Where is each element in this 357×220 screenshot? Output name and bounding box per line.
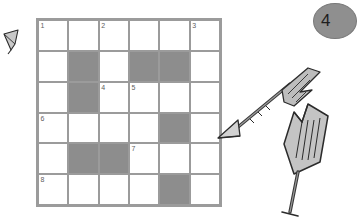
grid-cell[interactable] [39, 83, 67, 112]
page-number-label: 4 [321, 11, 330, 31]
cell-number: 3 [192, 21, 196, 30]
cell-number: 7 [132, 144, 136, 153]
left-arrowhead-icon [2, 28, 24, 56]
grid-cell[interactable]: 1 [39, 21, 67, 50]
crossword-grid[interactable]: 1 2 3 4 5 6 7 8 [36, 18, 222, 207]
grid-cell-block [100, 144, 128, 173]
grid-cell[interactable] [160, 21, 188, 50]
vertical-arrow-icon [272, 100, 338, 220]
grid-cell[interactable]: 8 [39, 175, 67, 204]
grid-cell[interactable] [39, 52, 67, 81]
grid-cell[interactable] [191, 83, 219, 112]
cell-number: 2 [101, 21, 105, 30]
grid-cell-block [130, 52, 158, 81]
grid-cell[interactable] [39, 144, 67, 173]
grid-cell[interactable] [100, 175, 128, 204]
grid-cell[interactable] [191, 144, 219, 173]
grid-cell-block [69, 52, 97, 81]
cell-number: 4 [101, 83, 105, 92]
grid-cell[interactable] [69, 21, 97, 50]
grid-cell[interactable] [130, 114, 158, 143]
grid-cell-block [160, 114, 188, 143]
grid-cell[interactable] [191, 175, 219, 204]
grid-cell[interactable] [160, 83, 188, 112]
page-number-badge: 4 [313, 3, 357, 39]
grid-cell[interactable]: 6 [39, 114, 67, 143]
grid-cell[interactable]: 4 [100, 83, 128, 112]
grid-cell-block [69, 83, 97, 112]
grid-cell-block [69, 144, 97, 173]
grid-cell[interactable] [191, 52, 219, 81]
cell-number: 8 [41, 175, 45, 184]
grid-cell[interactable] [130, 175, 158, 204]
grid-cell[interactable] [100, 114, 128, 143]
grid-cell-block [160, 52, 188, 81]
grid-cell-block [160, 175, 188, 204]
grid-cell[interactable] [191, 114, 219, 143]
grid-cell[interactable]: 2 [100, 21, 128, 50]
cell-number: 6 [41, 114, 45, 123]
grid-cell[interactable] [69, 175, 97, 204]
grid-cell[interactable] [160, 144, 188, 173]
grid-cell[interactable] [69, 114, 97, 143]
cell-number: 5 [132, 83, 136, 92]
grid-cell[interactable] [100, 52, 128, 81]
cell-number: 1 [41, 21, 45, 30]
grid-cell[interactable]: 3 [191, 21, 219, 50]
grid-cell[interactable]: 7 [130, 144, 158, 173]
grid-cell[interactable]: 5 [130, 83, 158, 112]
grid-cell[interactable] [130, 21, 158, 50]
horizontal-arrow-icon [216, 62, 326, 144]
